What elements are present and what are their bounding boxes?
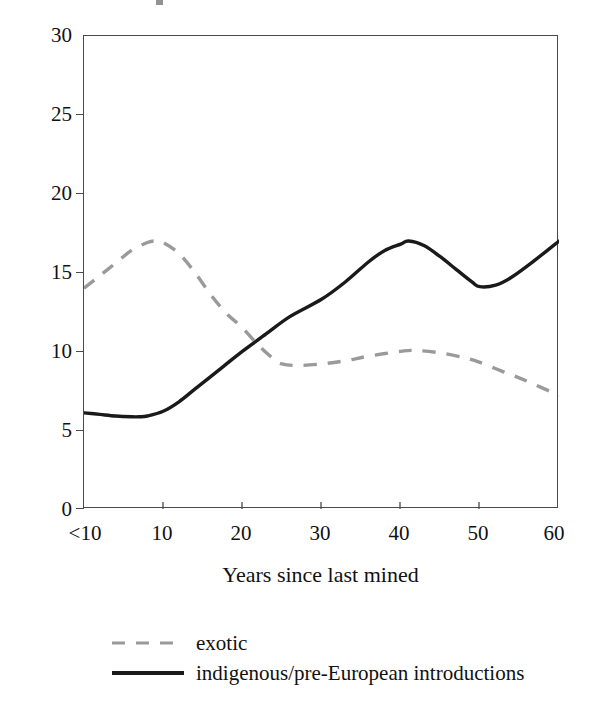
x-tick-label-40: 40 xyxy=(354,521,444,545)
legend-item-indigenous[interactable]: indigenous/pre-European introductions xyxy=(112,658,582,688)
legend: exotic indigenous/pre-European introduct… xyxy=(112,628,582,688)
y-tick-label-15: 15 xyxy=(24,262,72,283)
y-tick-label-30: 30 xyxy=(24,25,72,46)
y-tick-label-0: 0 xyxy=(24,499,72,520)
legend-item-exotic[interactable]: exotic xyxy=(112,628,582,658)
x-tick-label-60: 60 xyxy=(509,521,599,545)
cropped-caption-artifact xyxy=(156,0,163,5)
y-tick-label-25: 25 xyxy=(24,104,72,125)
x-tick-marks xyxy=(163,502,479,509)
series-line-indigenous xyxy=(84,241,559,417)
series-line-exotic xyxy=(84,241,559,396)
y-tick-mark-0 xyxy=(76,508,84,509)
plot-canvas xyxy=(84,36,559,509)
legend-swatch-solid-line-icon xyxy=(112,666,184,680)
y-tick-label-20: 20 xyxy=(24,183,72,204)
x-tick-label-20: 20 xyxy=(196,521,286,545)
legend-swatch-dashed-line-icon xyxy=(112,636,184,650)
y-tick-label-10: 10 xyxy=(24,341,72,362)
x-tick-label-10: 10 xyxy=(117,521,207,545)
x-tick-label-30: 30 xyxy=(275,521,365,545)
x-axis: <10 10 20 30 40 50 60 xyxy=(0,521,605,553)
y-tick-label-5: 5 xyxy=(24,420,72,441)
legend-label-indigenous: indigenous/pre-European introductions xyxy=(184,661,524,685)
chart-figure: 30 25 20 15 10 5 0 <10 10 20 xyxy=(0,0,605,706)
legend-label-exotic: exotic xyxy=(184,631,247,655)
y-axis: 30 25 20 15 10 5 0 xyxy=(14,0,72,706)
plot-area xyxy=(83,35,558,508)
x-axis-title: Years since last mined xyxy=(83,562,558,588)
